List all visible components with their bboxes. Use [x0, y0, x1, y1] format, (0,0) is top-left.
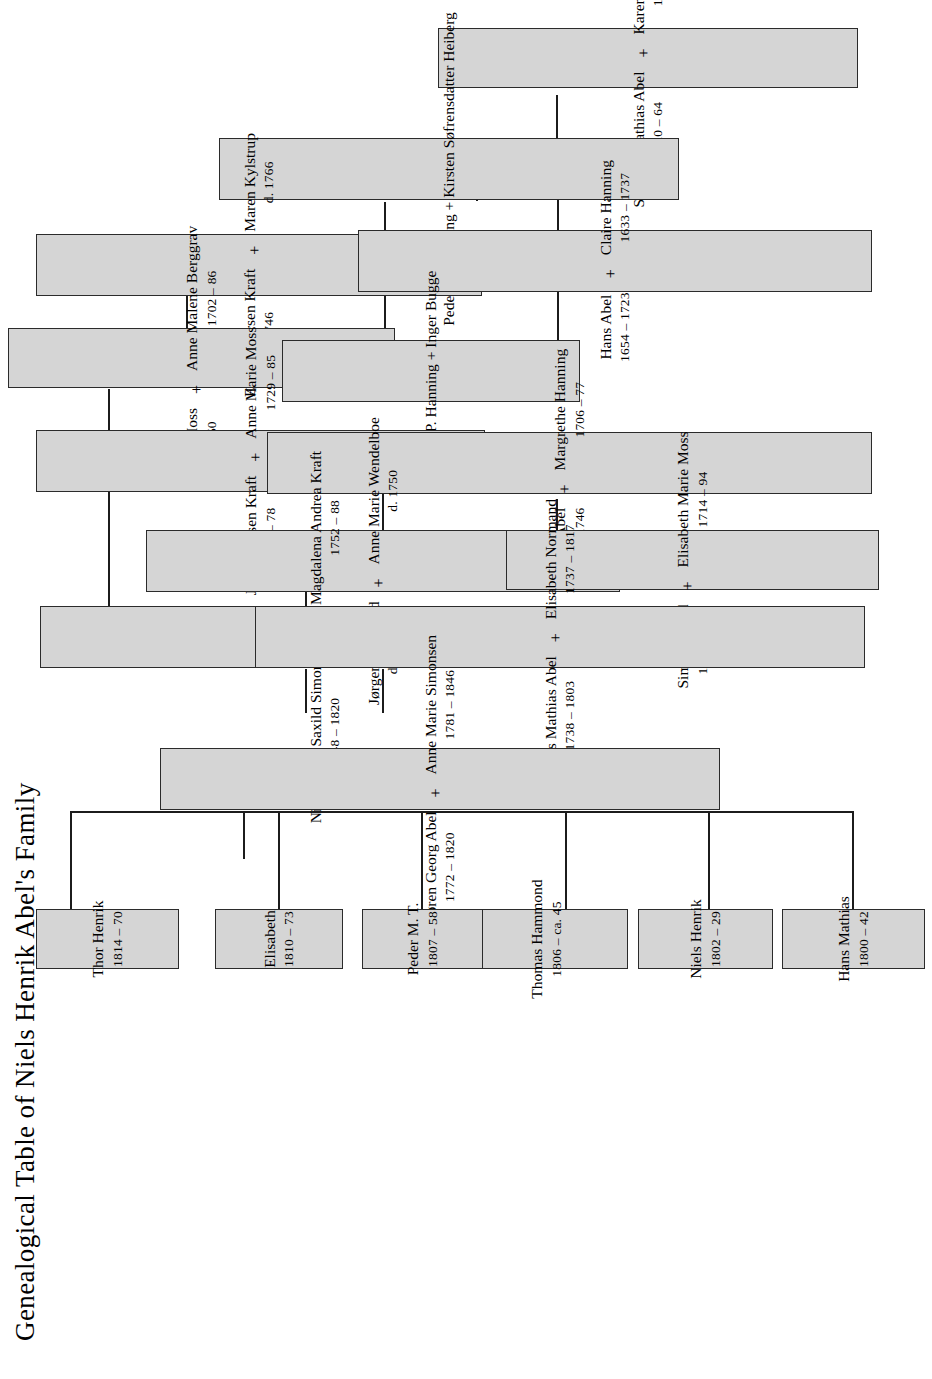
connector-stamfar-to-hansabel: [556, 95, 558, 139]
union-left-hans-abel: Hans Abel 1654 – 1723: [597, 290, 633, 364]
node-stamfar-mathias-abel-karen-rasmusdatter[interactable]: Stamfar Mathias Abel ca. 1620 – 64 + Kar…: [438, 28, 858, 88]
plus-sign: +: [370, 566, 388, 599]
plus-sign: +: [602, 257, 620, 290]
union-right-maren-kylstrup: Maren Kylstrup d. 1766: [241, 131, 277, 234]
union-right-anne-marie-simonsen: Anne Marie Simonsen 1781 – 1846: [422, 633, 458, 776]
genealogy-canvas: Genealogical Table of Niels Henrik Abel'…: [0, 0, 932, 1379]
union-right-claire-hanning: Claire Hanning 1633 – 1737: [597, 158, 633, 257]
node-soren-abel-margrethe-hanning[interactable]: Søren Abel 1698 – 1746 + Margrethe Hanni…: [267, 432, 872, 494]
node-soren-georg-abel-anne-marie-simonsen[interactable]: Søren Georg Abel 1772 – 1820 + Anne Mari…: [160, 748, 720, 810]
rotated-diagram-canvas: Genealogical Table of Niels Henrik Abel'…: [0, 0, 932, 1379]
node-child-hans-mathias[interactable]: Hans Mathias 1800 – 42: [782, 909, 925, 969]
plus-sign: +: [679, 570, 697, 603]
plus-sign: +: [547, 621, 565, 654]
union-left-soren-georg-abel: Søren Georg Abel 1772 – 1820: [422, 809, 458, 925]
union-right-anne-marie-moss: Anne Marie Moss 1729 – 85: [242, 325, 278, 441]
plus-sign: +: [246, 234, 264, 267]
plus-sign: +: [247, 441, 265, 474]
connector-child-6: [70, 811, 72, 909]
union-right-margrethe-hanning: Margrethe Hanning 1706 – 77: [551, 347, 587, 473]
union-right-anne-marie-wendelboe: Anne Marie Wendelboe d. 1750: [365, 415, 401, 566]
node-child-elisabeth[interactable]: Elisabeth 1810 – 73: [215, 909, 343, 969]
connector-parents-to-children-stem: [243, 811, 245, 859]
union-right-magdalena-andrea-kraft: Magdalena Andrea Kraft 1752 – 88: [307, 449, 343, 607]
plus-sign: +: [427, 776, 445, 809]
connector-child-3: [565, 811, 567, 909]
children-bus-vertical: [70, 812, 853, 814]
union-right-anne-malene-berggrav: Anne Malene Berggrav 1702 – 86: [183, 224, 219, 373]
connector-child-5: [278, 811, 280, 909]
node-peder-p-hanning-inger-bugge[interactable]: Peder P. Hanning + Inger Bugge: [282, 340, 580, 402]
node-child-peder-m-t[interactable]: Peder M. T. 1807 – 58: [362, 909, 483, 969]
plus-sign: +: [635, 37, 653, 70]
union-right-karen: Karen Rasmusdatter 1633 – 1712: [630, 0, 666, 37]
connector-child-1: [852, 811, 854, 909]
node-child-thomas-hammond[interactable]: Thomas Hammond 1806 – ca. 45: [465, 909, 628, 969]
union-right-elisabeth-marie-moss: Elisabeth Marie Moss 1714 – 94: [674, 429, 710, 569]
node-child-thor-henrik[interactable]: Thor Henrik 1814 – 70: [36, 909, 179, 969]
node-child-niels-henrik[interactable]: Niels Henrik 1802 – 29: [638, 909, 773, 969]
plus-sign: +: [188, 373, 206, 406]
node-hans-mathias-abel-elisabeth-normand[interactable]: Hans Mathias Abel 1738 – 1803 + Elisabet…: [255, 606, 865, 668]
union-right-elisabeth-normand: Elisabeth Normand 1737 – 1817: [542, 497, 578, 621]
page-title: Genealogical Table of Niels Henrik Abel'…: [10, 782, 41, 1341]
connector-child-2: [708, 811, 710, 909]
